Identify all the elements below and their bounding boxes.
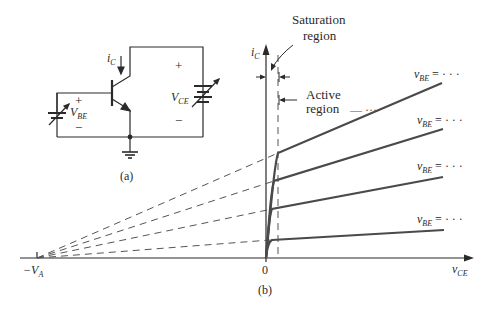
saturation-label-line2: region [303,29,336,42]
x-axis-arrow-icon [464,255,474,262]
vbe-minus: − [75,121,82,134]
active-label-line1: Active [306,88,341,101]
part-a-caption: (a) [120,170,133,182]
emitter-arrow-icon [121,103,130,111]
curve-label-2: vBE = · · · [417,114,463,126]
curve-label-4: vBE = · · · [417,213,463,225]
vbe-label: VBE [70,106,87,118]
arrow-icon [279,98,285,103]
y-axis-arrow-icon [263,44,270,55]
ic-label: iC [107,52,116,64]
graph-axes [20,44,474,262]
curve-label-3: vBE = · · · [417,160,463,172]
saturation-label-line1: Saturation [292,13,345,26]
region-annotations [256,45,297,105]
active-label-line2: region [306,102,339,115]
vce-label: VCE [171,91,189,103]
y-axis-label: iC [251,46,260,58]
saturation-arrow-icon [271,63,276,71]
arrow-icon [260,75,266,80]
emitter-wire [112,99,130,137]
early-voltage-extrapolations [37,55,278,258]
part-b-caption: (b) [258,284,272,296]
neg-va-label: −VA [23,264,43,276]
curve-label-1: vBE = · · · [414,68,460,80]
x-axis-label: vCE [452,263,468,275]
circuit-schematic [48,47,219,158]
active-label-trailer: — ··· [350,104,377,116]
collector-wire [112,47,203,137]
bjt-characteristics-figure: iC + VBE − + VCE − (a) iC Saturation reg… [0,0,487,309]
curve-4 [266,230,444,258]
vce-plus: + [175,59,182,72]
figure-drawing [0,0,487,309]
vce-minus: − [175,114,182,127]
origin-label: 0 [262,264,268,276]
arrow-icon [279,75,285,80]
